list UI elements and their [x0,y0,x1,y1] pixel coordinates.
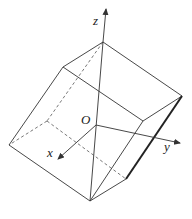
edge-top-topleft [63,42,103,67]
hidden-edge-hiddenleft-to-left [9,121,47,145]
z-axis [103,9,106,42]
x-axis-label: x [46,145,53,160]
edge-right-innerright [143,96,182,121]
x-axis [58,125,96,159]
edge-top-bottom-diagonal [90,42,103,201]
hidden-edge-hiddenleft-to-bottomright [47,121,126,179]
visible-edges [9,42,182,201]
edge-topleft-innerright [63,67,143,121]
z-axis-label: z [92,13,98,28]
y-axis-label: y [162,139,170,154]
origin-label: O [81,112,91,127]
edge-topleft-left [9,67,63,145]
edge-top-right [103,42,182,96]
edge-bottomright-bottom [90,179,126,201]
hidden-edge-top-to-hiddenleft [47,42,103,121]
solid-diagram: z y x O [0,0,192,219]
hidden-edges [9,42,126,179]
axes [58,9,180,159]
